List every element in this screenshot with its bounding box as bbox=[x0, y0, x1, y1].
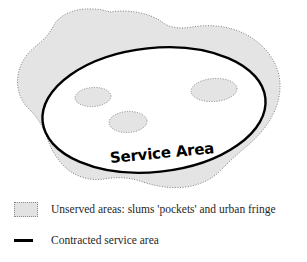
legend-swatch-contracted-line bbox=[14, 233, 38, 248]
legend-label-unserved: Unserved areas: slums 'pockets' and urba… bbox=[51, 203, 276, 216]
legend-label-contracted: Contracted service area bbox=[51, 234, 159, 247]
schematic-map-figure: Service Area Unserved areas: slums 'pock… bbox=[0, 0, 307, 262]
legend: Unserved areas: slums 'pockets' and urba… bbox=[0, 196, 307, 262]
legend-item-contracted: Contracted service area bbox=[14, 233, 159, 248]
map-svg bbox=[0, 0, 307, 196]
map-canvas: Service Area bbox=[0, 0, 307, 196]
legend-item-unserved: Unserved areas: slums 'pockets' and urba… bbox=[14, 202, 276, 217]
legend-swatch-unserved-box bbox=[14, 202, 38, 217]
legend-line-glyph bbox=[14, 239, 33, 242]
